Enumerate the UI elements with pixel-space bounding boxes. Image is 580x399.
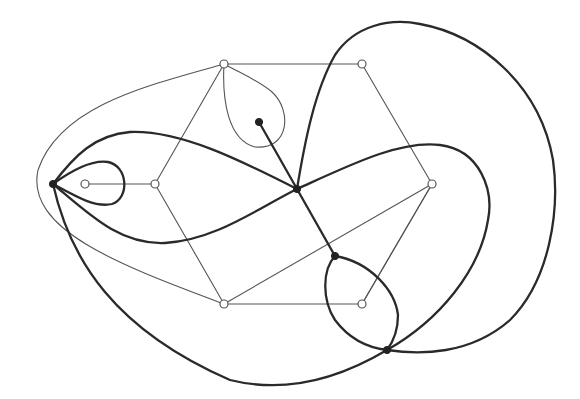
vertex-b xyxy=(358,60,366,68)
dual-vertex-L xyxy=(49,180,56,187)
dual-vertex-C xyxy=(293,185,300,192)
vertex-d xyxy=(358,300,366,308)
vertex-a xyxy=(220,60,228,68)
dual-vertex-T xyxy=(255,118,262,125)
edge-b-c xyxy=(362,64,432,184)
graph-diagram xyxy=(0,0,580,399)
dual-edge-C-B-inner xyxy=(297,144,489,350)
primal-edges xyxy=(37,64,432,304)
graph-canvas xyxy=(0,0,580,399)
dual-edge-L-C-upper xyxy=(53,132,297,189)
edge-a-loop xyxy=(224,64,285,147)
dual-vertex-B xyxy=(383,346,390,353)
dual-edges xyxy=(53,22,555,385)
edge-f-a xyxy=(155,64,224,184)
vertex-c xyxy=(428,180,436,188)
dual-vertex-M xyxy=(331,252,338,259)
dual-edge-C-M xyxy=(297,189,335,256)
vertex-f xyxy=(151,180,159,188)
edge-c-d-inner xyxy=(362,184,432,304)
vertex-g xyxy=(81,180,89,188)
dual-edge-L-B xyxy=(53,184,387,385)
dual-edge-L-C-lower xyxy=(53,184,297,243)
vertex-e xyxy=(220,300,228,308)
dual-edge-M-B-left xyxy=(325,256,387,350)
dual-edge-M-B-right xyxy=(335,256,398,350)
